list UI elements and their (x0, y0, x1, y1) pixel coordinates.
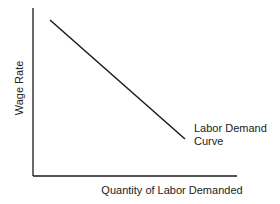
curve-annotation-line1: Labor Demand (194, 122, 267, 135)
curve-annotation: Labor Demand Curve (194, 122, 267, 148)
curve-annotation-line2: Curve (194, 135, 267, 148)
labor-demand-curve (50, 20, 185, 139)
chart-canvas (0, 0, 280, 204)
x-axis-label: Quantity of Labor Demanded (101, 184, 242, 196)
y-axis-label: Wage Rate (13, 61, 25, 116)
